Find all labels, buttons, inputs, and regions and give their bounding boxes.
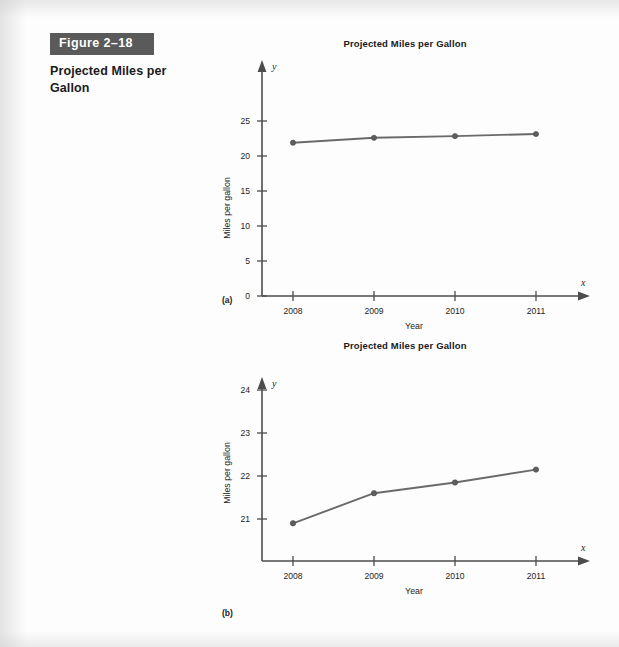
y-tick-label: 24: [240, 385, 250, 395]
chart-b-x-axis-symbol: x: [580, 542, 586, 553]
chart-b-plot: 21 22 23 24 2008 2009 2010 2011: [200, 333, 610, 643]
x-tick-label: 2011: [527, 306, 546, 316]
scanned-page: Figure 2–18 Projected Miles per Gallon P…: [0, 0, 619, 647]
chart-a-y-axis-symbol: y: [271, 61, 277, 72]
data-point: [533, 467, 538, 472]
chart-b-series: [290, 467, 538, 526]
chart-a-subfigure-label: (a): [222, 295, 232, 305]
chart-b-y-tick-labels: 21 22 23 24: [240, 385, 250, 524]
chart-b-x-axis-label: Year: [405, 586, 423, 596]
data-point: [290, 140, 295, 145]
figure-caption-block: Figure 2–18 Projected Miles per Gallon: [50, 33, 190, 96]
chart-b-subfigure-label: (b): [222, 608, 233, 618]
chart-b-x-tick-labels: 2008 2009 2010 2011: [283, 571, 545, 581]
chart-a-x-axis: [262, 292, 590, 301]
chart-b-y-axis-label: Miles per gallon: [222, 442, 232, 504]
y-tick-label: 22: [240, 471, 250, 481]
chart-a-series: [290, 131, 538, 145]
y-tick-label: 21: [240, 514, 250, 524]
x-tick-label: 2008: [283, 306, 302, 316]
x-tick-label: 2011: [527, 571, 546, 581]
chart-panel-a: Projected Miles per Gallon: [200, 30, 610, 330]
chart-b-x-axis: [262, 557, 590, 566]
data-point: [452, 480, 457, 485]
chart-a-y-tick-labels: 0 5 10 15 20 25: [240, 116, 250, 301]
chart-a-x-axis-symbol: x: [580, 277, 586, 288]
data-point: [290, 521, 295, 526]
x-tick-label: 2010: [445, 306, 464, 316]
data-point: [371, 135, 376, 140]
y-tick-label: 5: [245, 256, 250, 266]
chart-a-x-axis-label: Year: [405, 321, 423, 330]
data-point: [452, 134, 457, 139]
y-tick-label: 0: [245, 291, 250, 301]
y-tick-label: 25: [240, 116, 250, 126]
chart-a-plot: 0 5 10 15 20 25 2008 2009 2010 2011: [200, 30, 610, 330]
y-tick-label: 23: [240, 428, 250, 438]
y-tick-label: 15: [240, 186, 250, 196]
x-tick-label: 2010: [445, 571, 464, 581]
chart-a-x-tick-labels: 2008 2009 2010 2011: [283, 306, 545, 316]
chart-a-y-axis-label: Miles per gallon: [222, 177, 232, 239]
y-tick-label: 20: [240, 151, 250, 161]
x-tick-label: 2008: [283, 571, 302, 581]
figure-number-badge: Figure 2–18: [50, 33, 154, 55]
chart-b-y-axis: [258, 377, 267, 561]
chart-panel-b: Projected Miles per Gallon 21 22: [200, 333, 610, 643]
y-tick-label: 10: [240, 221, 250, 231]
chart-b-y-axis-symbol: y: [271, 378, 277, 389]
x-tick-label: 2009: [364, 571, 383, 581]
x-tick-label: 2009: [364, 306, 383, 316]
figure-caption-text: Projected Miles per Gallon: [50, 63, 190, 96]
data-point: [533, 131, 538, 136]
data-point: [371, 491, 376, 496]
